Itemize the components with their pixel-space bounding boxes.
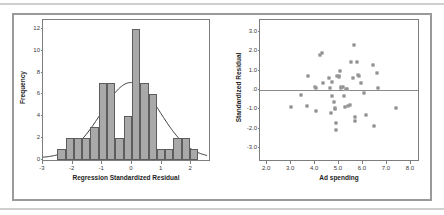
scatter-point — [351, 76, 354, 79]
histogram-bar — [74, 138, 82, 160]
scatter-point — [334, 108, 337, 111]
axis-tick-label: -1 — [99, 165, 104, 171]
axis-tick-label: 6 — [37, 90, 40, 96]
spss-regression-diagnostics-figure: 024681012 -3-2-1012 Regression Standardi… — [0, 0, 444, 215]
axis-tick-label: 1 — [159, 165, 162, 171]
scatter-point — [357, 75, 360, 78]
axis-tick-mark — [338, 161, 339, 164]
scatter-point — [299, 94, 302, 97]
scatterplot-x-axis-title: Ad spending — [259, 174, 419, 181]
axis-tick-label: -2.0 — [247, 125, 257, 131]
axis-tick-label: 4 — [37, 112, 40, 118]
axis-tick-mark — [314, 161, 315, 164]
axis-tick-mark — [161, 161, 162, 164]
axis-tick-label: -2 — [69, 165, 74, 171]
histogram-bar — [132, 29, 140, 160]
histogram-bar — [99, 83, 107, 160]
scatter-point — [328, 87, 331, 90]
axis-tick-mark — [42, 161, 43, 164]
scatterplot-y-axis: 3.02.01.0.0-1.0-2.0-3.0 — [227, 19, 257, 161]
axis-tick-label: 8 — [37, 69, 40, 75]
scatter-point — [290, 106, 293, 109]
scatter-point — [333, 101, 336, 104]
axis-tick-label: 0 — [37, 156, 40, 162]
axis-tick-mark — [190, 161, 191, 164]
histogram-bar — [140, 83, 148, 160]
histogram-bar — [82, 138, 90, 160]
scatter-point — [363, 91, 366, 94]
scatter-point — [339, 70, 342, 73]
axis-tick-label: 12 — [33, 25, 40, 31]
histogram-y-axis-title: Frequency — [19, 48, 26, 128]
axis-tick-mark — [410, 161, 411, 164]
axis-tick-label: 0 — [129, 165, 132, 171]
scatter-point — [345, 88, 348, 91]
scatter-point — [355, 60, 358, 63]
histogram-bar — [165, 149, 173, 160]
histogram-bar — [107, 83, 115, 160]
scatterplot-plot-area — [259, 19, 419, 161]
axis-tick-label: 10 — [33, 47, 40, 53]
histogram-bar — [182, 138, 190, 160]
scatter-point — [342, 94, 345, 97]
scatter-point — [352, 44, 355, 47]
axis-tick-label: 5.0 — [334, 165, 342, 171]
axis-tick-label: 1.0 — [249, 67, 257, 73]
histogram-bar — [90, 127, 98, 160]
scatter-point — [335, 128, 338, 131]
axis-tick-mark — [131, 161, 132, 164]
axis-tick-label: 2.0 — [249, 47, 257, 53]
axis-tick-label: -3 — [39, 165, 44, 171]
scatter-point — [307, 74, 310, 77]
scatter-point — [314, 87, 317, 90]
scatter-point — [330, 112, 333, 115]
histogram-bar — [124, 116, 132, 160]
scatterplot-chart: 3.02.01.0.0-1.0-2.0-3.0 2.03.04.05.06.07… — [218, 13, 432, 201]
scatter-point — [376, 87, 379, 90]
axis-tick-mark — [386, 161, 387, 164]
histogram-bar — [157, 149, 165, 160]
scatter-point — [354, 120, 357, 123]
axis-tick-label: .0 — [252, 86, 257, 92]
scatter-point — [338, 75, 341, 78]
histogram-bar — [149, 94, 157, 160]
scatter-point — [320, 52, 323, 55]
histogram-bar — [66, 138, 74, 160]
axis-tick-label: 8.0 — [406, 165, 414, 171]
histogram-bar — [57, 149, 65, 160]
scatter-point — [331, 95, 334, 98]
scatter-point — [349, 60, 352, 63]
scatter-point — [373, 124, 376, 127]
bottom-divider-rule — [0, 208, 444, 210]
scatter-point — [353, 115, 356, 118]
axis-tick-label: -1.0 — [247, 105, 257, 111]
scatter-point — [375, 71, 378, 74]
scatter-point — [394, 107, 397, 110]
scatter-point — [330, 80, 333, 83]
scatter-point — [334, 122, 337, 125]
scatter-point — [305, 105, 308, 108]
scatter-point — [321, 81, 324, 84]
axis-tick-label: 4.0 — [310, 165, 318, 171]
charts-container: 024681012 -3-2-1012 Regression Standardi… — [12, 13, 432, 201]
axis-tick-label: 3.0 — [249, 28, 257, 34]
top-divider-rule — [0, 3, 444, 5]
scatterplot-y-axis-title: Standardized Residual — [235, 42, 242, 134]
histogram-plot-area — [42, 19, 210, 161]
axis-tick-mark — [72, 161, 73, 164]
scatter-point — [328, 76, 331, 79]
histogram-chart: 024681012 -3-2-1012 Regression Standardi… — [12, 13, 218, 201]
axis-tick-label: 7.0 — [382, 165, 390, 171]
axis-tick-label: 2 — [37, 134, 40, 140]
scatter-point — [348, 104, 351, 107]
axis-tick-mark — [101, 161, 102, 164]
histogram-x-axis-title: Regression Standardized Residual — [42, 174, 210, 181]
histogram-bar — [190, 149, 198, 160]
histogram-bar — [115, 138, 123, 160]
scatter-point — [371, 64, 374, 67]
scatter-point — [364, 113, 367, 116]
scatter-point — [359, 82, 362, 85]
histogram-bar — [173, 138, 181, 160]
axis-tick-mark — [290, 161, 291, 164]
histogram-y-axis: 024681012 — [12, 19, 40, 161]
